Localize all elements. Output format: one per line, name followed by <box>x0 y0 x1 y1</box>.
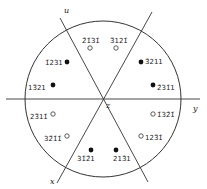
pole-label: 3̄211 <box>145 58 163 66</box>
pole-label: 3̄121̄ <box>110 37 128 45</box>
filled-pole-marker <box>89 148 94 153</box>
filled-pole-marker <box>114 148 119 153</box>
axis-label-z: z <box>105 101 111 110</box>
pole-label: 1̄32̄1̄ <box>157 111 175 119</box>
filled-pole-marker <box>151 83 156 88</box>
open-pole-marker <box>151 112 155 116</box>
filled-pole-marker <box>51 83 56 88</box>
open-pole-marker <box>65 134 69 138</box>
open-pole-marker <box>88 46 92 50</box>
pole-label: 13̄21 <box>28 84 46 92</box>
pole-label: 123̄1̄ <box>145 134 163 142</box>
filled-pole-marker <box>139 60 144 65</box>
open-pole-marker <box>51 112 55 116</box>
x-axis-line <box>57 12 152 183</box>
pole-label: 2̄1̄31̄ <box>82 37 100 45</box>
pole-label: 1̄231 <box>45 59 63 67</box>
stereographic-diagram: u x y z 2̄1̄31̄ 3̄121̄ 1̄231 13̄21 3̄211… <box>0 0 207 189</box>
pole-label: 213̄1 <box>113 155 131 163</box>
pole-label: 23̄11̄ <box>30 113 48 121</box>
filled-pole-marker <box>65 60 70 65</box>
axis-label-x: x <box>50 177 55 186</box>
axis-label-y: y <box>192 104 198 113</box>
open-pole-marker <box>139 134 143 138</box>
open-pole-marker <box>114 46 118 50</box>
pole-label: 2̄31̄1 <box>157 84 175 92</box>
pole-label: 32̄1̄1̄ <box>44 135 62 143</box>
axis-label-u: u <box>64 6 69 15</box>
pole-label: 31̄2̄1 <box>77 155 95 163</box>
